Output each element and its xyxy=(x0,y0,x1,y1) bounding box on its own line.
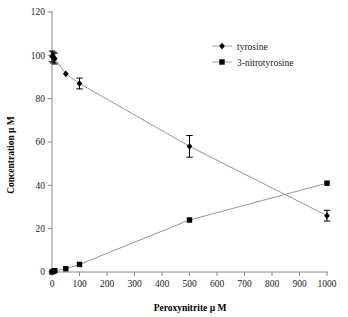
square-marker-icon xyxy=(52,268,57,273)
square-marker-icon xyxy=(77,262,82,267)
x-axis-tick-label: 0 xyxy=(50,279,55,289)
x-axis-title: Peroxynitrite μ M xyxy=(154,303,227,313)
y-axis-tick-label: 60 xyxy=(36,137,46,147)
y-axis-title: Concentration μ M xyxy=(6,116,16,194)
square-marker-icon xyxy=(63,266,68,271)
x-axis-tick-label: 500 xyxy=(182,279,197,289)
x-axis-tick-label: 600 xyxy=(210,279,225,289)
legend-label: 3-nitrotyrosine xyxy=(237,58,293,68)
chart-container: 020406080100120 010020030040050060070080… xyxy=(0,0,348,317)
y-axis-tick-label: 80 xyxy=(36,94,46,104)
y-axis-tick-label: 120 xyxy=(31,7,46,17)
square-marker-icon xyxy=(219,59,224,64)
x-axis-tick-label: 200 xyxy=(100,279,115,289)
x-axis-tick-label: 100 xyxy=(72,279,87,289)
y-axis-tick-label: 20 xyxy=(36,224,46,234)
y-axis-tick-label: 40 xyxy=(36,181,46,191)
y-axis-tick-label: 100 xyxy=(31,51,46,61)
y-axis-tick-label: 0 xyxy=(40,267,45,277)
legend-label: tyrosine xyxy=(237,42,268,52)
x-axis-tick-label: 800 xyxy=(265,279,280,289)
x-axis-tick-label: 400 xyxy=(155,279,170,289)
x-axis-tick-label: 900 xyxy=(292,279,307,289)
x-axis-tick-label: 1000 xyxy=(318,279,337,289)
square-marker-icon xyxy=(187,217,192,222)
square-marker-icon xyxy=(324,180,329,185)
scatter-plot: 020406080100120 010020030040050060070080… xyxy=(0,0,348,317)
x-axis-tick-label: 700 xyxy=(237,279,252,289)
x-axis-tick-label: 300 xyxy=(127,279,142,289)
